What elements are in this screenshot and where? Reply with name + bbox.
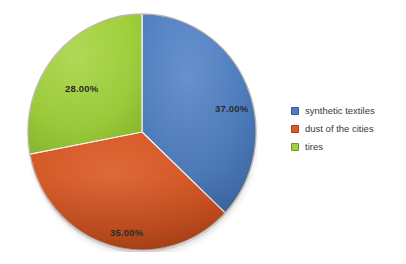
pie-graphic (26, 12, 258, 252)
slice-value-label-dust-of-the-cities: 35.00% (110, 228, 143, 238)
legend-swatch-icon-dust-of-the-cities (291, 125, 299, 133)
legend-label-tires: tires (305, 142, 323, 152)
legend-swatch-icon-synthetic-textiles (291, 107, 299, 115)
legend-label-synthetic-textiles: synthetic textiles (305, 106, 375, 116)
legend-item-dust-of-the-cities[interactable]: dust of the cities (291, 120, 403, 138)
legend-item-synthetic-textiles[interactable]: synthetic textiles (291, 102, 403, 120)
pie-chart: 37.00% 35.00% 28.00% synthetic textiles … (0, 0, 406, 264)
pie-plot-area: 37.00% 35.00% 28.00% (26, 12, 258, 252)
legend-swatch-icon-tires (291, 143, 299, 151)
chart-legend: synthetic textiles dust of the cities ti… (291, 102, 403, 156)
legend-item-tires[interactable]: tires (291, 138, 403, 156)
legend-label-dust-of-the-cities: dust of the cities (305, 124, 374, 134)
slice-value-label-synthetic-textiles: 37.00% (215, 104, 248, 114)
slice-value-label-tires: 28.00% (65, 84, 98, 94)
pie-slices (28, 14, 256, 250)
